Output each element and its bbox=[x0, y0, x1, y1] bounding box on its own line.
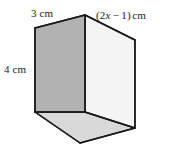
label-left-height: 4 cm bbox=[4, 64, 26, 75]
label-depth: (2x − 1)cm bbox=[96, 10, 146, 21]
label-depth-close-paren: ) bbox=[127, 9, 131, 21]
geometry-figure: 3 cm 4 cm (2x − 1)cm bbox=[0, 0, 170, 153]
cuboid-left-face bbox=[35, 15, 85, 112]
label-left-height-text: 4 cm bbox=[4, 63, 26, 75]
cuboid-right-face bbox=[85, 15, 135, 128]
label-depth-variable: x bbox=[105, 9, 110, 21]
label-depth-unit: cm bbox=[132, 9, 146, 21]
label-depth-operator: − bbox=[113, 9, 119, 21]
label-top-width-text: 3 cm bbox=[31, 7, 53, 19]
label-top-width: 3 cm bbox=[31, 8, 53, 19]
cuboid-diagram bbox=[0, 0, 170, 153]
